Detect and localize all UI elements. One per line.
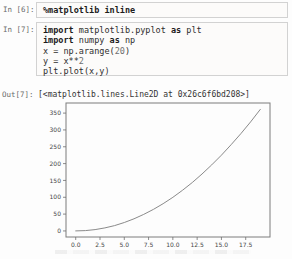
x-tick-label: 17.5 [239, 241, 253, 248]
y-tick-label: 350 [50, 109, 62, 116]
y-tick-label: 100 [50, 193, 62, 200]
notebook-page: In [6]: %matplotlib inline In [7]: impor… [0, 0, 292, 259]
input-prompt-6: In [6]: [3, 5, 35, 14]
axes-box [66, 103, 270, 237]
x-tick-label: 12.5 [190, 241, 204, 248]
code-cell-input-7[interactable]: import matplotlib.pyplot as pltimport nu… [36, 22, 288, 76]
code-line: %matplotlib inline [43, 5, 287, 15]
x-tick-label: 2.5 [95, 241, 105, 248]
parabola-line [76, 109, 261, 230]
x-tick-label: 0.0 [71, 241, 81, 248]
y-tick-label: 0 [57, 227, 61, 234]
x-tick-label: 15.0 [215, 241, 229, 248]
cropped-caption [55, 250, 251, 254]
code-line: import matplotlib.pyplot as plt [43, 25, 287, 35]
code-line: y = x**2 [43, 56, 287, 66]
y-tick-label: 50 [53, 210, 61, 217]
y-tick-label: 300 [50, 126, 62, 133]
y-tick-label: 150 [50, 177, 62, 184]
y-tick-label: 250 [50, 143, 62, 150]
code-line: x = np.arange(20) [43, 46, 287, 56]
input-prompt-7: In [7]: [3, 25, 35, 34]
x-tick-label: 5.0 [120, 241, 130, 248]
x-tick-label: 7.5 [144, 241, 154, 248]
code-cell-input-6[interactable]: %matplotlib inline [36, 2, 288, 18]
code-line: plt.plot(x,y) [43, 66, 287, 76]
y-tick-label: 200 [50, 160, 62, 167]
matplotlib-figure: 0501001502002503003500.02.55.07.510.012.… [0, 96, 292, 256]
code-line: import numpy as np [43, 35, 287, 45]
x-tick-label: 10.0 [166, 241, 180, 248]
